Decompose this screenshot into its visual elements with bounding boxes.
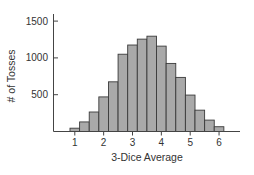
histogram-chart: 50010001500 123456 3-Dice Average # of T… bbox=[0, 0, 254, 175]
histogram-bar bbox=[80, 122, 90, 132]
histogram-bar bbox=[128, 45, 138, 131]
x-tick-label: 1 bbox=[72, 137, 78, 148]
histogram-bar bbox=[214, 127, 224, 132]
histogram-bar bbox=[147, 36, 157, 131]
histogram-bar bbox=[89, 112, 99, 132]
histogram-bar bbox=[185, 95, 195, 131]
histogram-bar bbox=[137, 39, 147, 131]
histogram-bar bbox=[118, 54, 128, 131]
x-axis-title: 3-Dice Average bbox=[111, 151, 183, 163]
histogram-bar bbox=[157, 46, 167, 131]
x-ticks: 123456 bbox=[72, 132, 222, 149]
y-tick-label: 500 bbox=[31, 89, 48, 100]
x-tick-label: 3 bbox=[130, 137, 136, 148]
y-tick-label: 1000 bbox=[26, 52, 49, 63]
histogram-bar bbox=[176, 77, 186, 131]
x-tick-label: 4 bbox=[159, 137, 165, 148]
histogram-bar bbox=[99, 97, 109, 132]
x-tick-label: 6 bbox=[216, 137, 222, 148]
x-tick-label: 2 bbox=[101, 137, 107, 148]
histogram-bar bbox=[195, 110, 205, 131]
x-tick-label: 5 bbox=[187, 137, 193, 148]
y-tick-label: 1500 bbox=[26, 16, 49, 27]
histogram-bar bbox=[205, 120, 215, 131]
y-axis-title: # of Tosses bbox=[5, 50, 17, 103]
histogram-bar bbox=[108, 82, 118, 132]
histogram-bars bbox=[70, 36, 224, 131]
histogram-bar bbox=[166, 63, 176, 131]
